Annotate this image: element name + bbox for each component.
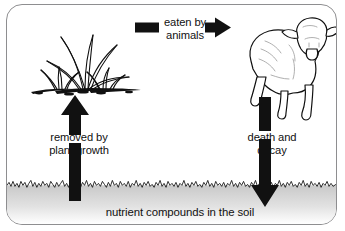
label-death-and-decay: death and decay bbox=[225, 131, 319, 156]
arrow-tail bbox=[259, 97, 271, 131]
grass-plant-illustration bbox=[25, 27, 147, 99]
arrow-head bbox=[61, 95, 89, 135]
label-eaten-by-animals: eaten by animals bbox=[159, 16, 211, 41]
diagram-frame: eaten by animals removed by plant growth… bbox=[6, 4, 337, 225]
label-nutrient-compounds: nutrient compounds in the soil bbox=[43, 206, 317, 219]
diagram-canvas: eaten by animals removed by plant growth… bbox=[0, 0, 345, 231]
arrow-tail bbox=[135, 23, 159, 33]
label-removed-by-plant-growth: removed by plant growth bbox=[21, 131, 137, 156]
